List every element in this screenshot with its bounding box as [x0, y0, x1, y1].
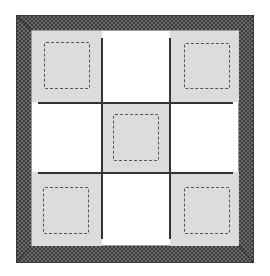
cell-bottom-left — [32, 172, 102, 246]
cell-center — [102, 102, 170, 172]
cell-middle-right — [170, 102, 239, 172]
cell-middle-left — [32, 102, 102, 172]
grid-line-horizontal-1 — [38, 102, 233, 104]
dashed-square — [184, 43, 230, 89]
cell-top-center — [102, 31, 170, 102]
dashed-square — [43, 187, 89, 234]
grid-area — [31, 30, 239, 246]
grid-line-vertical-2 — [169, 38, 171, 239]
dashed-square — [113, 114, 159, 161]
cell-top-left — [32, 31, 102, 102]
cell-bottom-center — [102, 172, 170, 246]
cell-bottom-right — [170, 172, 239, 246]
cell-top-right — [170, 31, 239, 102]
dashed-square — [44, 42, 90, 89]
dashed-square — [184, 187, 230, 234]
grid-line-horizontal-2 — [38, 172, 233, 174]
grid-line-vertical-1 — [101, 38, 103, 239]
